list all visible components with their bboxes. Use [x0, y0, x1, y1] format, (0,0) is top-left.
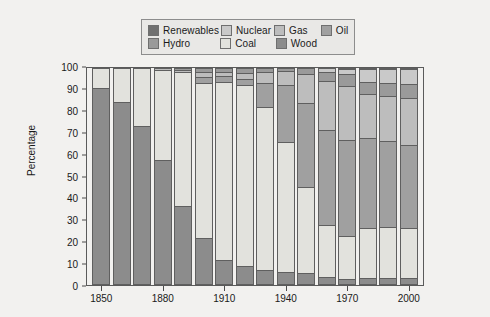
bar-segment-oil-1940	[278, 86, 294, 143]
bar-segment-wood-1860	[114, 103, 130, 284]
y-tick-label-0: 0	[52, 281, 78, 292]
bar-slot-1990[interactable]	[379, 68, 397, 285]
bar-segment-nuclear-1980	[360, 70, 376, 83]
legend-item-hydro[interactable]: Hydro	[148, 38, 190, 49]
legend-swatch-oil-icon	[321, 25, 332, 36]
legend-label-renewables: Renewables	[163, 25, 219, 36]
bar-slot-2000[interactable]	[400, 68, 418, 285]
y-tick-label-50: 50	[52, 171, 78, 182]
bar-segment-coal-1950	[298, 188, 314, 274]
y-tick-label-10: 10	[52, 259, 78, 270]
bar-slot-1920[interactable]	[236, 68, 254, 285]
x-tick-mark-1940	[286, 286, 287, 291]
bar-segment-coal-1870	[134, 69, 150, 127]
bar-slot-1900[interactable]	[195, 68, 213, 285]
bar-segment-coal-1970	[339, 237, 355, 280]
bar-segment-hydro-1980	[360, 83, 376, 95]
legend-item-coal[interactable]: Coal	[220, 38, 256, 49]
bar-segment-wood-2000	[401, 279, 417, 284]
bar-segment-gas-1950	[298, 75, 314, 104]
legend-swatch-hydro-icon	[148, 38, 159, 49]
stacked-bar-1930[interactable]	[256, 68, 274, 285]
stacked-bar-1960[interactable]	[318, 68, 336, 285]
chart-figure: RenewablesNuclearGasOil HydroCoalWood 10…	[0, 0, 490, 317]
y-tick-label-80: 80	[52, 105, 78, 116]
bar-slot-1890[interactable]	[174, 68, 192, 285]
legend-label-wood: Wood	[291, 38, 317, 49]
y-tick-label-70: 70	[52, 127, 78, 138]
bar-segment-wood-1880	[155, 161, 171, 284]
x-tick-label-1850: 1850	[90, 293, 112, 304]
bar-slot-1910[interactable]	[215, 68, 233, 285]
stacked-bar-1920[interactable]	[236, 68, 254, 285]
bar-segment-oil-1960	[319, 131, 335, 226]
bar-slot-1950[interactable]	[297, 68, 315, 285]
stacked-bar-1980[interactable]	[359, 68, 377, 285]
legend-item-gas[interactable]: Gas	[274, 25, 308, 36]
stacked-bar-1950[interactable]	[297, 68, 315, 285]
bar-slot-1850[interactable]	[92, 68, 110, 285]
legend-item-nuclear[interactable]: Nuclear	[221, 25, 271, 36]
stacked-bar-1900[interactable]	[195, 68, 213, 285]
stacked-bar-1890[interactable]	[174, 68, 192, 285]
x-tick-label-2000: 2000	[398, 293, 420, 304]
legend-swatch-coal-icon	[220, 38, 231, 49]
stacked-bar-1970[interactable]	[338, 68, 356, 285]
stacked-bar-1910[interactable]	[215, 68, 233, 285]
legend-item-oil[interactable]: Oil	[321, 25, 349, 36]
bar-segment-coal-1960	[319, 226, 335, 278]
stacked-bar-1860[interactable]	[113, 68, 131, 285]
stacked-bars	[87, 68, 423, 285]
bar-segment-coal-2000	[401, 229, 417, 278]
bar-slot-1870[interactable]	[133, 68, 151, 285]
bar-segment-coal-1880	[155, 71, 171, 161]
x-tick-mark-1970	[347, 286, 348, 291]
legend-item-renewables[interactable]: Renewables	[148, 25, 219, 36]
bar-segment-coal-1910	[216, 83, 232, 261]
stacked-bar-1880[interactable]	[154, 68, 172, 285]
legend-label-hydro: Hydro	[163, 38, 190, 49]
x-tick-label-1970: 1970	[336, 293, 358, 304]
legend-item-wood[interactable]: Wood	[276, 38, 317, 49]
bar-segment-oil-1970	[339, 141, 355, 237]
bar-segment-wood-1940	[278, 273, 294, 284]
legend-label-oil: Oil	[336, 25, 349, 36]
legend-swatch-gas-icon	[274, 25, 285, 36]
bar-segment-oil-1930	[257, 84, 273, 108]
stacked-bar-1850[interactable]	[92, 68, 110, 285]
legend-label-gas: Gas	[289, 25, 308, 36]
bar-segment-wood-1890	[175, 207, 191, 284]
bar-slot-1930[interactable]	[256, 68, 274, 285]
bar-slot-1860[interactable]	[113, 68, 131, 285]
stacked-bar-1940[interactable]	[277, 68, 295, 285]
bar-segment-wood-1980	[360, 279, 376, 284]
bar-slot-1940[interactable]	[277, 68, 295, 285]
bar-slot-1970[interactable]	[338, 68, 356, 285]
bar-segment-coal-1930	[257, 108, 273, 271]
bar-segment-gas-1970	[339, 87, 355, 141]
bar-slot-1880[interactable]	[154, 68, 172, 285]
bar-segment-wood-1850	[93, 89, 109, 284]
plot-area	[86, 67, 424, 286]
bar-segment-coal-1920	[237, 86, 253, 267]
stacked-bar-1870[interactable]	[133, 68, 151, 285]
bar-segment-gas-1960	[319, 82, 335, 131]
stacked-bar-1990[interactable]	[379, 68, 397, 285]
x-tick-mark-1880	[163, 286, 164, 291]
legend-row-2: HydroCoalWood	[148, 37, 348, 50]
x-tick-label-1940: 1940	[275, 293, 297, 304]
bar-slot-1980[interactable]	[359, 68, 377, 285]
x-tick-label-1910: 1910	[213, 293, 235, 304]
bar-segment-nuclear-1990	[380, 70, 396, 84]
stacked-bar-2000[interactable]	[400, 68, 418, 285]
bar-slot-1960[interactable]	[318, 68, 336, 285]
bar-segment-hydro-1960	[319, 73, 335, 82]
bar-segment-hydro-1970	[339, 75, 355, 87]
bar-segment-gas-1940	[278, 72, 294, 86]
y-tick-label-40: 40	[52, 193, 78, 204]
y-axis: 1009080706050403020100	[52, 60, 86, 293]
bar-segment-coal-1900	[196, 84, 212, 239]
bar-segment-wood-1960	[319, 278, 335, 284]
bar-segment-oil-1980	[360, 139, 376, 229]
legend-swatch-wood-icon	[276, 38, 287, 49]
